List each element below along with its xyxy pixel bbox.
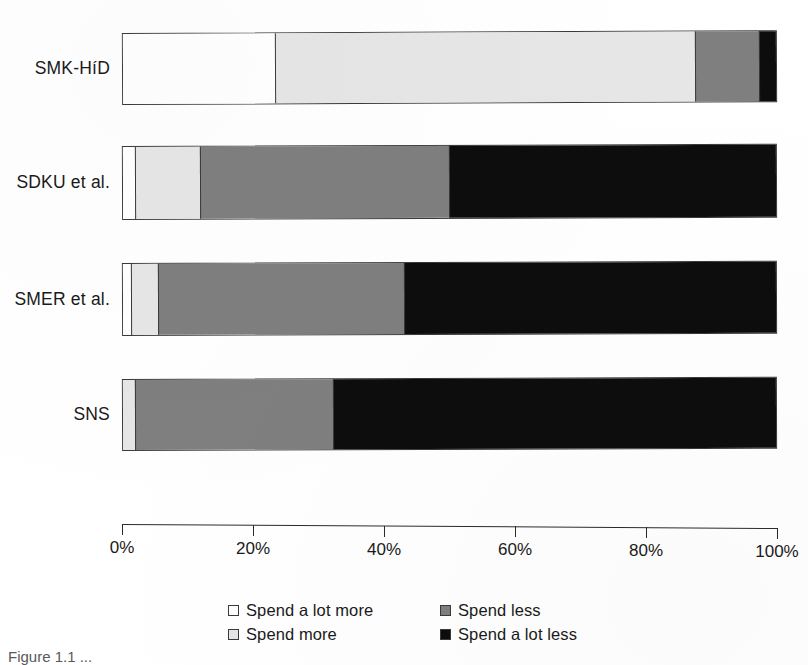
x-axis-tick-label: 0% — [87, 538, 157, 558]
stacked-bar[interactable] — [122, 377, 777, 451]
category-label: SNS — [0, 404, 110, 425]
category-label: SMER et al. — [0, 289, 110, 310]
legend-item-spend-a-lot-less[interactable]: Spend a lot less — [440, 622, 577, 646]
x-axis-tick — [777, 528, 778, 539]
bar-segment[interactable] — [449, 145, 776, 218]
x-axis-tick-label: 100% — [742, 542, 808, 562]
bar-segment[interactable] — [123, 147, 135, 219]
x-axis-tick-label: 20% — [218, 539, 288, 559]
legend-label-spend-less: Spend less — [458, 601, 541, 620]
bar-segment[interactable] — [759, 31, 776, 101]
bar-segment[interactable] — [135, 379, 334, 450]
x-axis-tick — [253, 525, 254, 536]
x-axis-tick-label: 40% — [349, 540, 419, 560]
legend-item-spend-a-lot-more[interactable]: Spend a lot more — [228, 598, 373, 622]
x-axis-tick-label: 60% — [480, 540, 550, 560]
bar-segment[interactable] — [135, 147, 201, 219]
plot-area: SMK-HíDSDKU et al.SMER et al.SNS0%20%40%… — [0, 0, 808, 665]
bar-segment[interactable] — [123, 264, 131, 335]
legend-item-spend-more[interactable]: Spend more — [228, 622, 373, 646]
bar-segment[interactable] — [157, 263, 403, 335]
bar-segment[interactable] — [123, 380, 135, 450]
stacked-bar[interactable] — [122, 261, 777, 336]
bar-row: SMK-HíD — [0, 33, 808, 105]
bar-row: SDKU et al. — [0, 146, 808, 220]
legend-column-right: Spend less Spend a lot less — [440, 598, 577, 646]
legend-swatch-spend-a-lot-less — [440, 629, 451, 640]
category-label: SDKU et al. — [0, 172, 110, 193]
legend-label-spend-a-lot-more: Spend a lot more — [246, 601, 373, 620]
stacked-bar[interactable] — [122, 144, 777, 220]
bar-segment[interactable] — [131, 264, 158, 335]
legend-label-spend-more: Spend more — [246, 625, 337, 644]
x-axis-tick — [384, 526, 385, 537]
legend-swatch-spend-less — [440, 605, 451, 616]
x-axis-tick-label: 80% — [611, 541, 681, 561]
stacked-bar-chart: SMK-HíDSDKU et al.SMER et al.SNS0%20%40%… — [0, 0, 808, 665]
x-axis-tick — [515, 526, 516, 537]
bar-segment[interactable] — [274, 31, 695, 103]
bar-row: SNS — [0, 379, 808, 451]
legend-swatch-spend-a-lot-more — [228, 605, 239, 616]
x-axis-line — [122, 524, 777, 529]
x-axis-tick — [122, 524, 123, 535]
bar-segment[interactable] — [123, 33, 275, 104]
bar-row: SMER et al. — [0, 263, 808, 336]
x-axis-tick — [646, 527, 647, 538]
figure-caption: Figure 1.1 ... — [8, 648, 92, 665]
legend-swatch-spend-more — [228, 629, 239, 640]
bar-segment[interactable] — [333, 378, 776, 450]
stacked-bar[interactable] — [122, 30, 777, 105]
legend-item-spend-less[interactable]: Spend less — [440, 598, 577, 622]
bar-segment[interactable] — [200, 146, 450, 219]
bar-segment[interactable] — [404, 262, 776, 334]
bar-segment[interactable] — [695, 31, 759, 101]
category-label: SMK-HíD — [0, 58, 110, 79]
legend-label-spend-a-lot-less: Spend a lot less — [458, 625, 577, 644]
legend-column-left: Spend a lot more Spend more — [228, 598, 373, 646]
